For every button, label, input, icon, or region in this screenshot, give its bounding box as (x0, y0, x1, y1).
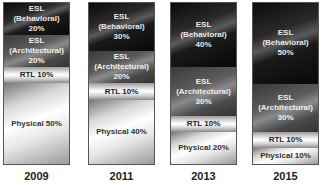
segment-label: RTL 10% (20, 70, 54, 80)
segment-label: RTL 10% (105, 87, 139, 97)
x-tick-label: 2011 (88, 170, 155, 182)
segment-label: (Architectural) (176, 87, 231, 97)
segment-esl-behavioral: ESL(Behavioral)40% (171, 3, 236, 67)
segment-label: ESL (176, 77, 231, 87)
segment-label: RTL 10% (187, 119, 221, 129)
x-tick-label: 2009 (3, 170, 70, 182)
segment-value: 20% (9, 56, 64, 66)
segment-label: RTL 10% (269, 135, 303, 145)
bar-2011: ESL(Behavioral)30% ESL(Architectural)20%… (88, 2, 155, 165)
segment-rtl: RTL 10% (4, 67, 69, 83)
segment-value: 20% (94, 72, 149, 82)
bar-2013: ESL(Behavioral)40% ESL(Architectural)30%… (170, 2, 237, 165)
segment-label: ESL (180, 20, 226, 30)
segment-label: (Behavioral) (262, 38, 308, 48)
segment-label: (Behavioral) (13, 14, 59, 24)
segment-esl-behavioral: ESL(Behavioral)30% (89, 3, 154, 51)
segment-value: 40% (180, 40, 226, 50)
segment-physical: Physical 40% (89, 100, 154, 164)
segment-physical: Physical 20% (171, 132, 236, 164)
segment-label: ESL (98, 12, 144, 22)
segment-label: Physical 50% (11, 119, 62, 129)
segment-esl-behavioral: ESL(Behavioral)20% (4, 3, 69, 35)
segment-rtl: RTL 10% (253, 132, 318, 148)
segment-label: (Architectural) (94, 62, 149, 72)
segment-label: ESL (262, 28, 308, 38)
segment-label: Physical 10% (260, 151, 311, 161)
segment-physical: Physical 10% (253, 148, 318, 164)
segment-value: 20% (13, 24, 59, 34)
segment-value: 30% (258, 113, 313, 123)
segment-value: 30% (176, 97, 231, 107)
segment-rtl: RTL 10% (89, 83, 154, 99)
segment-value: 50% (262, 48, 308, 58)
segment-label: (Behavioral) (98, 22, 144, 32)
segment-label: (Architectural) (9, 46, 64, 56)
segment-value: 30% (98, 32, 144, 42)
segment-physical: Physical 50% (4, 83, 69, 164)
stacked-bar-chart: ESL(Behavioral)20% ESL(Architectural)20%… (0, 0, 324, 185)
segment-label: (Behavioral) (180, 30, 226, 40)
x-tick-label: 2013 (170, 170, 237, 182)
segment-rtl: RTL 10% (171, 116, 236, 132)
segment-label: (Architectural) (258, 103, 313, 113)
segment-label: ESL (13, 4, 59, 14)
bar-2015: ESL(Behavioral)50% ESL(Architectural)30%… (252, 2, 319, 165)
segment-esl-architectural: ESL(Architectural)30% (253, 84, 318, 132)
segment-label: Physical 20% (178, 143, 229, 153)
segment-label: ESL (94, 52, 149, 62)
segment-esl-behavioral: ESL(Behavioral)50% (253, 3, 318, 84)
segment-esl-architectural: ESL(Architectural)30% (171, 67, 236, 115)
segment-esl-architectural: ESL(Architectural)20% (4, 35, 69, 67)
segment-label: ESL (258, 93, 313, 103)
segment-label: ESL (9, 36, 64, 46)
segment-esl-architectural: ESL(Architectural)20% (89, 51, 154, 83)
segment-label: Physical 40% (96, 127, 147, 137)
bar-2009: ESL(Behavioral)20% ESL(Architectural)20%… (3, 2, 70, 165)
x-tick-label: 2015 (252, 170, 319, 182)
